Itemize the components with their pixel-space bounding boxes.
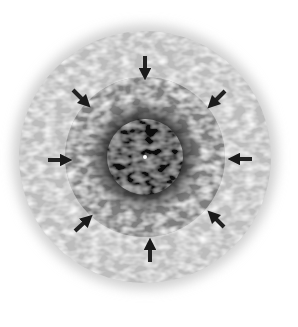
diagram-canvas [0,0,298,327]
center-point [143,155,147,159]
